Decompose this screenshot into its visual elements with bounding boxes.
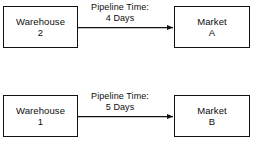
edge-label-flow-top: Pipeline Time: 4 Days: [80, 2, 160, 24]
node-warehouse-2-label-line2: 2: [38, 27, 43, 38]
edge-label-flow-top-line1: Pipeline Time:: [80, 2, 160, 13]
node-market-b-label-line2: B: [209, 116, 215, 127]
edge-label-flow-top-line2: 4 Days: [80, 13, 160, 24]
node-warehouse-1[interactable]: Warehouse 1: [3, 95, 78, 137]
node-warehouse-1-label-line2: 1: [38, 116, 43, 127]
edge-label-flow-bottom-line2: 5 Days: [80, 102, 160, 113]
node-warehouse-1-label-line1: Warehouse: [16, 105, 65, 116]
node-market-a[interactable]: Market A: [174, 6, 250, 48]
node-market-b-label-line1: Market: [197, 105, 227, 116]
node-warehouse-2-label-line1: Warehouse: [16, 16, 65, 27]
node-market-b[interactable]: Market B: [174, 95, 250, 137]
node-market-a-label-line1: Market: [197, 16, 227, 27]
node-market-a-label-line2: A: [209, 27, 215, 38]
node-warehouse-2[interactable]: Warehouse 2: [3, 6, 78, 48]
edge-label-flow-bottom-line1: Pipeline Time:: [80, 91, 160, 102]
pipeline-time-diagram: Warehouse 2 Pipeline Time: 4 Days Market…: [0, 0, 264, 144]
edge-label-flow-bottom: Pipeline Time: 5 Days: [80, 91, 160, 113]
